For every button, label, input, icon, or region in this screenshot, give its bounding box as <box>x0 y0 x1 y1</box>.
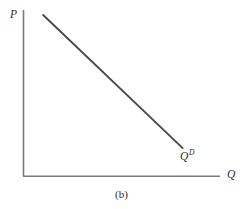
demand-curve-label-base: Q <box>180 150 188 162</box>
quantity-axis-label: Q <box>227 169 235 181</box>
figure-panel-b: P Q QD (b) <box>0 0 243 209</box>
demand-curve-line <box>43 15 183 148</box>
demand-curve-plot <box>0 0 243 209</box>
price-axis-label: P <box>10 9 17 21</box>
demand-curve-label-superscript: D <box>189 148 194 157</box>
panel-caption: (b) <box>0 189 243 200</box>
demand-curve-label: QD <box>180 151 194 163</box>
